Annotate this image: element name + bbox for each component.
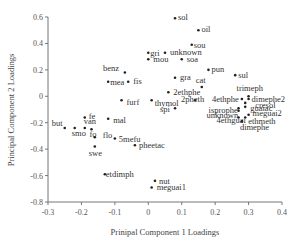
point-marker [174, 76, 177, 79]
point-label: mal [113, 115, 126, 125]
data-point: fis [127, 76, 142, 86]
point-marker [147, 51, 150, 54]
data-point: mal [107, 115, 127, 125]
x-axis-label: Prinipal Component 1 Loadings [111, 227, 220, 237]
data-point: van [83, 116, 96, 129]
point-label: sol [178, 12, 189, 22]
data-point: gra [174, 72, 191, 82]
point-marker [247, 95, 250, 98]
data-point: but [52, 118, 66, 129]
x-tick-label: -0.3 [42, 208, 55, 217]
data-point: 4ethphe [212, 94, 243, 104]
y-tick-label: -0.2 [30, 119, 43, 128]
x-tick-label: 0.2 [210, 208, 220, 217]
point-marker [124, 71, 127, 74]
point-label: fis [133, 76, 142, 86]
data-point: furf [120, 97, 139, 107]
point-marker [150, 99, 153, 102]
point-marker [94, 136, 97, 139]
x-tick-label: 0.3 [244, 208, 254, 217]
y-tick-label: 0 [39, 92, 43, 101]
point-marker [190, 43, 193, 46]
point-marker [244, 106, 247, 109]
point-label: dimephe [240, 122, 269, 132]
scatter-chart: 0.60.40.20-0.2-0.4-0.6-0.8-0.3-0.2-0.100… [0, 0, 305, 246]
point-marker [63, 127, 66, 130]
data-point: pheetac [134, 140, 165, 150]
point-label: furf [127, 97, 140, 107]
x-tick-label: 0.4 [277, 208, 287, 217]
x-tick-label: -0.1 [109, 208, 122, 217]
point-label: etdimph [106, 169, 135, 179]
y-tick-label: 0.2 [33, 66, 43, 75]
point-marker [244, 102, 247, 105]
point-label: 4ethphe [212, 94, 239, 104]
point-label: van [84, 116, 97, 126]
point-label: flo [103, 130, 112, 140]
data-point: oil [197, 24, 211, 34]
point-marker [234, 74, 237, 77]
x-tick-label: -0.2 [75, 208, 88, 217]
point-marker [127, 80, 130, 83]
point-label: trimeph [237, 83, 264, 93]
point-marker [120, 99, 123, 102]
y-tick-label: 0.4 [33, 39, 43, 48]
point-marker [107, 117, 110, 120]
y-tick-label: -0.6 [30, 172, 43, 181]
point-label: sul [238, 70, 249, 80]
point-marker [107, 80, 110, 83]
point-marker [167, 91, 170, 94]
point-label: 2pheth [181, 94, 205, 104]
point-marker [200, 86, 203, 89]
point-marker [207, 69, 210, 72]
data-point: sul [234, 70, 249, 80]
point-label: pun [211, 64, 225, 74]
point-label: spi [160, 104, 171, 114]
y-tick-label: 0.6 [33, 13, 43, 22]
data-point: swe [89, 145, 102, 157]
data-point: etdimph [104, 169, 135, 179]
data-point: sol [174, 12, 189, 22]
point-marker [174, 107, 177, 110]
point-label: oil [201, 24, 211, 34]
point-marker [174, 17, 177, 20]
point-label: but [52, 118, 64, 128]
point-marker [134, 144, 137, 147]
points-layer: soloilsougriunknownmousoabenzmeafisgrapu… [52, 12, 285, 192]
point-label: benz [103, 63, 119, 73]
data-point: dimephe [240, 120, 269, 132]
y-tick-label: -0.4 [30, 145, 43, 154]
point-label: meguai1 [157, 182, 186, 192]
data-point: pun [207, 64, 225, 74]
y-tick-label: -0.8 [30, 198, 43, 207]
data-point: mea [107, 77, 125, 87]
point-marker [244, 116, 247, 119]
data-point: meguai1 [150, 182, 186, 192]
point-label: pheetac [139, 140, 165, 150]
data-point: 2pheth [181, 94, 205, 104]
point-marker [114, 137, 117, 140]
data-point: 5mefu [114, 134, 142, 144]
point-label: cat [196, 75, 207, 85]
point-label: mou [153, 54, 169, 64]
point-label: gra [180, 72, 191, 82]
x-tick-label: 0 [146, 208, 150, 217]
x-tick-label: 0.1 [177, 208, 187, 217]
point-marker [150, 186, 153, 189]
point-marker [241, 98, 244, 101]
y-axis-label: Principal Component 2 Loadings [6, 54, 16, 167]
point-label: mea [110, 77, 124, 87]
point-marker [83, 127, 86, 130]
data-point: benz [103, 63, 126, 74]
point-label: smo [72, 128, 86, 138]
point-marker [247, 98, 250, 101]
point-label: swe [89, 148, 102, 158]
point-label: soa [187, 54, 199, 64]
point-marker [147, 58, 150, 61]
point-marker [197, 29, 200, 32]
point-marker [180, 58, 183, 61]
